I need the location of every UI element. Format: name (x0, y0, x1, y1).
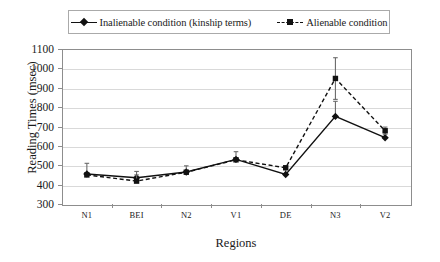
x-axis-tick-mark (360, 204, 361, 208)
legend-marker-diamond-icon (71, 17, 97, 27)
legend-label-inalienable: Inalienable condition (kinship terms) (100, 17, 252, 28)
y-axis-tick-label: 600 (20, 140, 54, 152)
y-axis-tick-label: 1100 (20, 43, 54, 55)
y-axis-tick-mark (58, 204, 62, 205)
series-line (87, 116, 385, 177)
legend-label-alienable: Alienable condition (306, 17, 387, 28)
y-axis-tick-label: 1000 (20, 62, 54, 74)
y-axis-tick-mark (58, 185, 62, 186)
y-axis-tick-mark (58, 127, 62, 128)
x-axis-tick-label: V2 (355, 210, 415, 220)
data-point-square (84, 172, 89, 177)
y-axis-tick-mark (58, 165, 62, 166)
data-point-square (382, 128, 387, 133)
x-axis-title: Regions (62, 236, 410, 251)
data-point-square (134, 178, 139, 183)
series-layer (62, 49, 410, 204)
x-axis-tick-mark (161, 204, 162, 208)
y-axis-tick-mark (58, 88, 62, 89)
legend-item-alienable: Alienable condition (277, 17, 387, 28)
x-axis-tick-mark (211, 204, 212, 208)
y-axis-tick-mark (58, 49, 62, 50)
y-axis-tick-mark (58, 68, 62, 69)
y-axis-tick-label: 400 (20, 179, 54, 191)
y-axis-tick-mark (58, 107, 62, 108)
data-point-square (184, 170, 189, 175)
x-axis-tick-mark (112, 204, 113, 208)
y-axis-tick-label: 800 (20, 101, 54, 113)
legend-item-inalienable: Inalienable condition (kinship terms) (71, 17, 252, 28)
x-axis-tick-mark (311, 204, 312, 208)
data-point-square (333, 76, 338, 81)
data-point-square (283, 165, 288, 170)
data-point-diamond (381, 134, 388, 141)
y-axis-tick-mark (58, 146, 62, 147)
series-inalienable (83, 101, 389, 182)
y-axis-tick-label: 700 (20, 121, 54, 133)
y-axis-tick-label: 900 (20, 82, 54, 94)
series-alienable (84, 58, 388, 184)
chart-container: Inalienable condition (kinship terms) Al… (0, 0, 440, 262)
x-axis-tick-mark (261, 204, 262, 208)
y-axis-tick-label: 300 (20, 198, 54, 210)
chart-legend: Inalienable condition (kinship terms) Al… (68, 10, 390, 34)
legend-marker-square-icon (277, 17, 303, 27)
y-axis-tick-label: 500 (20, 159, 54, 171)
data-point-square (233, 157, 238, 162)
series-line (87, 78, 385, 181)
